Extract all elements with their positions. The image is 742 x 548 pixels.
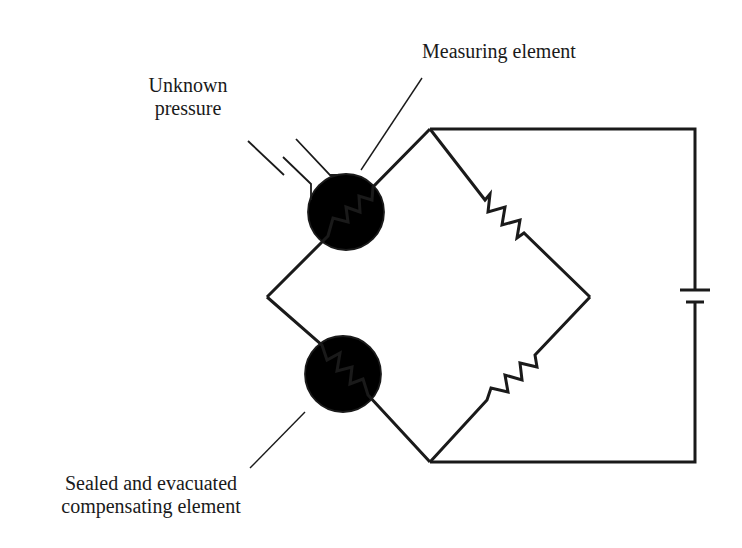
measuring-element bbox=[267, 129, 430, 297]
unknown-pressure-line1: Unknown bbox=[128, 74, 248, 97]
measuring-element-label: Measuring element bbox=[422, 40, 576, 63]
unknown-pressure-label: Unknown pressure bbox=[128, 74, 248, 120]
compensating-element bbox=[267, 297, 430, 462]
compensating-line1: Sealed and evacuated bbox=[28, 472, 274, 495]
unknown-pressure-line2: pressure bbox=[128, 97, 248, 120]
battery-icon bbox=[680, 290, 710, 302]
fixed-resistor-upper bbox=[430, 129, 590, 297]
measuring-element-arrow bbox=[361, 78, 422, 170]
compensating-element-arrow bbox=[250, 412, 305, 468]
circuit-svg bbox=[0, 0, 742, 548]
compensating-line2: compensating element bbox=[28, 495, 274, 518]
compensating-element-label: Sealed and evacuated compensating elemen… bbox=[28, 472, 274, 518]
bridge-diagram: Measuring element Unknown pressure Seale… bbox=[0, 0, 742, 548]
unknown-pressure-arrow bbox=[248, 141, 284, 175]
fixed-resistor-lower bbox=[430, 297, 590, 462]
